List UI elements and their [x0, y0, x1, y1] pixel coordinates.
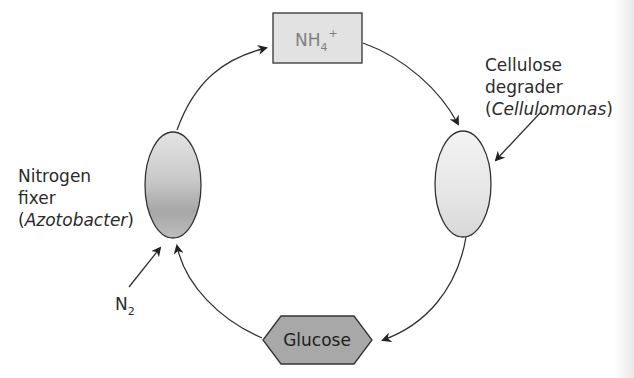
cellulose-line3: (Cellulomonas)	[485, 98, 613, 120]
fixer-line3: (Azotobacter)	[18, 209, 134, 231]
fixer-genus: Azotobacter	[25, 210, 128, 230]
ammonium-label: NH	[295, 30, 321, 50]
fixer-line2: fixer	[18, 187, 134, 209]
cellulose-line1: Cellulose	[485, 54, 613, 76]
ammonium-node: NH4+	[273, 13, 362, 63]
arrow-glucose-to-fixer	[177, 246, 262, 338]
cellulose-degrader-label: Cellulose degrader (Cellulomonas)	[485, 54, 613, 120]
glucose-node: Glucose	[263, 316, 372, 364]
glucose-label: Glucose	[283, 330, 351, 350]
cellulose-degrader-cell	[435, 131, 491, 237]
n2-label: N2	[115, 294, 135, 318]
arrow-n2-to-fixer	[129, 248, 160, 287]
arrow-ammonium-to-degrader	[363, 43, 458, 124]
fixer-line1: Nitrogen	[18, 165, 134, 187]
n2-main: N	[115, 294, 128, 314]
cellulose-paren-close: )	[606, 99, 613, 119]
cellulose-genus: Cellulomonas	[492, 99, 607, 119]
arrow-degrader-to-glucose	[383, 237, 466, 340]
nitrogen-fixer-cell	[145, 132, 201, 238]
cellulose-paren-open: (	[485, 99, 492, 119]
fixer-paren-close: )	[127, 210, 134, 230]
cellulose-line2: degrader	[485, 76, 613, 98]
arrow-fixer-to-ammonium	[177, 48, 266, 130]
ammonium-subscript: 4	[321, 41, 328, 54]
fixer-paren-open: (	[18, 210, 25, 230]
n2-subscript: 2	[128, 305, 135, 318]
nitrogen-fixer-label: Nitrogen fixer (Azotobacter)	[18, 165, 134, 231]
ammonium-superscript: +	[329, 27, 338, 40]
